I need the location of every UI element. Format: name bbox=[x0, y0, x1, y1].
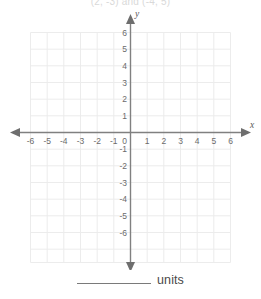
problem-prompt: (2, -3) and (-4, 5) bbox=[0, 0, 261, 7]
svg-text:-6: -6 bbox=[119, 228, 127, 238]
svg-text:-1: -1 bbox=[119, 144, 127, 154]
svg-text:3: 3 bbox=[122, 78, 127, 88]
svg-text:-1: -1 bbox=[110, 136, 118, 146]
coordinate-plane-svg: x y -6 -5 -4 -3 -2 -1 1 2 3 4 5 6 0 6 5 … bbox=[0, 8, 261, 270]
svg-text:-4: -4 bbox=[60, 136, 68, 146]
y-axis-label: y bbox=[134, 9, 140, 19]
svg-text:-4: -4 bbox=[119, 194, 127, 204]
svg-text:-5: -5 bbox=[119, 211, 127, 221]
answer-units-label: units bbox=[157, 273, 184, 287]
svg-text:-2: -2 bbox=[93, 136, 101, 146]
svg-text:-6: -6 bbox=[27, 136, 35, 146]
svg-text:6: 6 bbox=[122, 28, 127, 38]
y-axis bbox=[126, 14, 135, 270]
svg-text:-5: -5 bbox=[43, 136, 51, 146]
svg-text:-3: -3 bbox=[119, 178, 127, 188]
svg-text:1: 1 bbox=[145, 136, 150, 146]
svg-text:1: 1 bbox=[122, 111, 127, 121]
svg-text:4: 4 bbox=[122, 61, 127, 71]
svg-text:5: 5 bbox=[211, 136, 216, 146]
svg-text:2: 2 bbox=[122, 94, 127, 104]
svg-text:2: 2 bbox=[161, 136, 166, 146]
svg-text:-3: -3 bbox=[77, 136, 85, 146]
svg-text:-2: -2 bbox=[119, 161, 127, 171]
answer-row: units bbox=[0, 272, 261, 287]
answer-blank-input[interactable] bbox=[77, 272, 151, 284]
svg-text:5: 5 bbox=[122, 44, 127, 54]
svg-text:6: 6 bbox=[228, 136, 233, 146]
x-axis-label: x bbox=[249, 120, 255, 130]
svg-text:4: 4 bbox=[195, 136, 200, 146]
coordinate-plane: x y -6 -5 -4 -3 -2 -1 1 2 3 4 5 6 0 6 5 … bbox=[0, 8, 261, 270]
svg-text:3: 3 bbox=[178, 136, 183, 146]
